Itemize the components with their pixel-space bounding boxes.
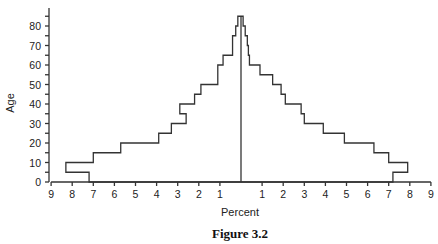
- y-tick-label: 40: [29, 98, 41, 110]
- y-tick-label: 30: [29, 118, 41, 130]
- y-tick-label: 70: [29, 40, 41, 52]
- x-tick-label-right: 1: [259, 188, 265, 200]
- x-axis-title: Percent: [221, 206, 259, 218]
- figure-caption: Figure 3.2: [212, 226, 268, 241]
- x-tick-label-left: 7: [90, 188, 96, 200]
- y-tick-label: 60: [29, 59, 41, 71]
- x-tick-label-right: 8: [407, 188, 413, 200]
- x-tick-label-left: 5: [133, 188, 139, 200]
- x-tick-label-right: 9: [428, 188, 434, 200]
- x-tick-label-right: 3: [301, 188, 307, 200]
- pyramid-outline: [66, 16, 408, 182]
- x-tick-label-right: 2: [280, 188, 286, 200]
- x-tick-label-left: 8: [69, 188, 75, 200]
- x-tick-label-right: 4: [322, 188, 328, 200]
- x-tick-label-right: 6: [365, 188, 371, 200]
- y-axis-title: Age: [4, 93, 16, 113]
- x-tick-label-left: 3: [175, 188, 181, 200]
- left-pyramid-outline: [66, 16, 241, 182]
- right-pyramid-outline: [241, 16, 408, 182]
- y-tick-label: 80: [29, 20, 41, 32]
- x-tick-label-right: 5: [344, 188, 350, 200]
- y-tick-label: 10: [29, 157, 41, 169]
- population-pyramid-chart: 01020304050607080987654321123456789 Perc…: [0, 0, 438, 244]
- x-tick-label-right: 7: [386, 188, 392, 200]
- x-tick-label-left: 1: [217, 188, 223, 200]
- tick-labels: 01020304050607080987654321123456789: [29, 20, 434, 200]
- x-tick-label-left: 2: [196, 188, 202, 200]
- y-tick-label: 50: [29, 79, 41, 91]
- y-tick-label: 20: [29, 137, 41, 149]
- axes: [45, 8, 431, 186]
- y-tick-label: 0: [35, 176, 41, 188]
- x-tick-label-left: 9: [48, 188, 54, 200]
- x-tick-label-left: 6: [111, 188, 117, 200]
- x-tick-label-left: 4: [154, 188, 160, 200]
